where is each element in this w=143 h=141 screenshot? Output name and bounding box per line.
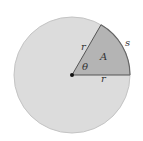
label-arc: s bbox=[125, 37, 130, 48]
sector-diagram: r r s A θ bbox=[0, 0, 143, 141]
center-point bbox=[70, 73, 74, 77]
label-area: A bbox=[99, 51, 107, 62]
label-angle: θ bbox=[82, 61, 88, 72]
